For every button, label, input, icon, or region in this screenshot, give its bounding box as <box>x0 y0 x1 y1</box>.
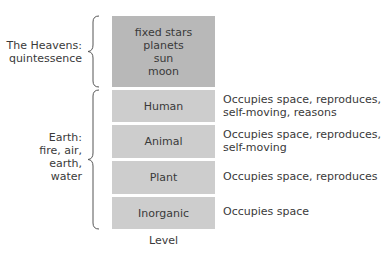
description-line: Occupies space, reproduces, <box>223 93 381 106</box>
level-box-heavens: fixed stars planets sun moon <box>112 16 215 87</box>
heavens-group-label: The Heavens: quintessence <box>0 39 82 65</box>
description-line: Occupies space, reproduces <box>223 170 378 183</box>
level-description-inorganic: Occupies space <box>223 205 309 218</box>
level-label: Animal <box>144 135 182 148</box>
heavens-label-line: quintessence <box>0 52 82 65</box>
axis-label-level: Level <box>112 234 215 247</box>
earth-label-line: Earth: <box>0 131 82 144</box>
heavens-label-line: The Heavens: <box>0 39 82 52</box>
earth-label-line: water <box>0 170 82 183</box>
earth-label-line: fire, air, <box>0 144 82 157</box>
level-label: Plant <box>150 171 178 184</box>
earth-group-label: Earth: fire, air, earth, water <box>0 131 82 183</box>
description-line: Occupies space, reproduces, <box>223 128 381 141</box>
level-description-human: Occupies space, reproduces, self-moving,… <box>223 93 381 119</box>
level-box-animal: Animal <box>112 125 215 158</box>
description-line: self-moving <box>223 141 381 154</box>
heavens-item: moon <box>148 65 179 78</box>
description-line: Occupies space <box>223 205 309 218</box>
level-box-human: Human <box>112 90 215 122</box>
heavens-item: sun <box>154 52 174 65</box>
description-line: self-moving, reasons <box>223 106 381 119</box>
level-box-inorganic: Inorganic <box>112 197 215 229</box>
heavens-brace-icon <box>87 15 101 88</box>
earth-brace-icon <box>87 89 101 231</box>
level-label: Human <box>144 100 184 113</box>
heavens-item: fixed stars <box>135 26 192 39</box>
heavens-item: planets <box>143 39 184 52</box>
level-label: Inorganic <box>138 207 189 220</box>
earth-label-line: earth, <box>0 157 82 170</box>
level-description-animal: Occupies space, reproduces, self-moving <box>223 128 381 154</box>
level-box-plant: Plant <box>112 161 215 194</box>
level-description-plant: Occupies space, reproduces <box>223 170 378 183</box>
